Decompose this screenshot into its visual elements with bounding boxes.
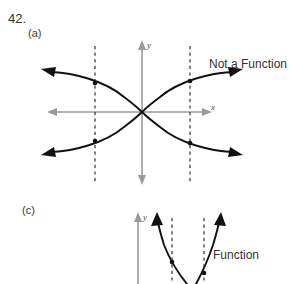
x-axis-arrow-left-a <box>47 108 57 116</box>
intersection-point <box>202 271 207 276</box>
curve-left-branch-c <box>151 212 187 284</box>
worksheet-page: 42. (a) Not a Function (c) Function y x <box>0 0 289 284</box>
curve-left-arrow-c <box>151 212 163 226</box>
curve-right-arrow-c <box>214 212 226 226</box>
graph-part-c: y <box>0 190 289 284</box>
y-axis-arrow-up-c <box>134 212 142 222</box>
curve-left-arrow-lower-a <box>41 147 56 157</box>
y-axis-label-a: y <box>146 40 151 50</box>
intersection-point <box>188 79 193 84</box>
intersection-point <box>93 139 98 144</box>
y-axis-arrow-up-a <box>138 40 146 50</box>
graph-part-a: y x <box>0 0 289 190</box>
x-axis-label-a: x <box>210 102 215 112</box>
curve-left-arrow-upper-a <box>41 67 56 77</box>
curve-right-branch-c <box>196 212 226 284</box>
intersection-point <box>170 260 175 265</box>
y-axis-c: y <box>134 212 147 284</box>
curve-right-path-c <box>196 222 219 284</box>
intersection-point <box>93 81 98 86</box>
intersection-point <box>188 141 193 146</box>
y-axis-arrow-down-a <box>138 175 146 185</box>
curve-right-arrow-upper-a <box>228 67 243 77</box>
curve-right-arrow-lower-a <box>228 147 243 157</box>
y-axis-label-c: y <box>142 212 147 222</box>
